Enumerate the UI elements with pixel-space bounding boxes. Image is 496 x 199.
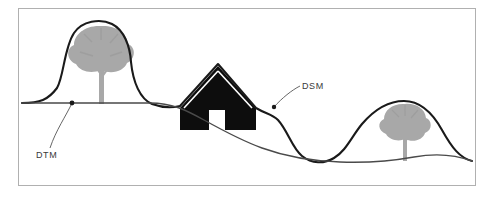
- house-door: [209, 110, 225, 132]
- dtm-leader-line: [50, 103, 72, 148]
- tree-right: [379, 104, 430, 161]
- diagram-canvas: [0, 0, 496, 199]
- dtm-label: DTM: [36, 150, 57, 160]
- dtm-anchor-point: [70, 101, 75, 106]
- figure-container: DTM DSM: [0, 0, 496, 199]
- dsm-anchor-point: [272, 105, 276, 109]
- dsm-leader-line: [274, 86, 300, 107]
- dsm-label: DSM: [302, 81, 324, 91]
- house-center: [180, 66, 256, 132]
